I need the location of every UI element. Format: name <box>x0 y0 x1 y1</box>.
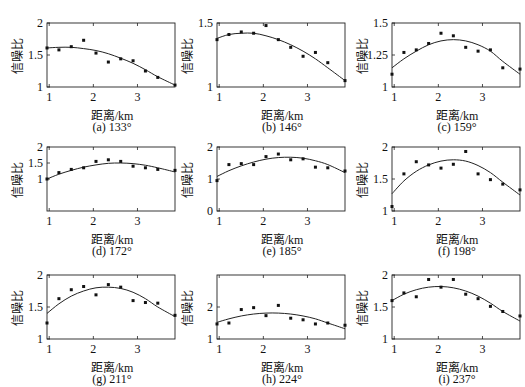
y-tick-label: 1.5 <box>373 300 388 314</box>
fit-curve <box>392 286 520 321</box>
data-point <box>477 297 480 300</box>
y-tick-label: 1 <box>382 332 388 346</box>
data-point <box>519 314 522 317</box>
data-point <box>427 278 430 281</box>
y-axis-label: 信噪比 <box>353 283 371 333</box>
data-point <box>464 293 467 296</box>
x-tick-label: 2 <box>435 342 441 356</box>
x-tick-label: 1 <box>391 342 397 356</box>
data-point <box>402 291 405 294</box>
subplot-caption: (i) 237° <box>392 372 522 387</box>
data-point <box>391 299 394 302</box>
data-point <box>489 305 492 308</box>
data-point <box>452 278 455 281</box>
x-tick-label: 3 <box>479 342 485 356</box>
data-point <box>501 310 504 313</box>
data-point <box>439 286 442 289</box>
subplot-i: 11.52123 <box>0 0 525 387</box>
plot-frame <box>392 275 520 339</box>
data-point <box>415 295 418 298</box>
y-tick-label: 2 <box>382 268 388 282</box>
